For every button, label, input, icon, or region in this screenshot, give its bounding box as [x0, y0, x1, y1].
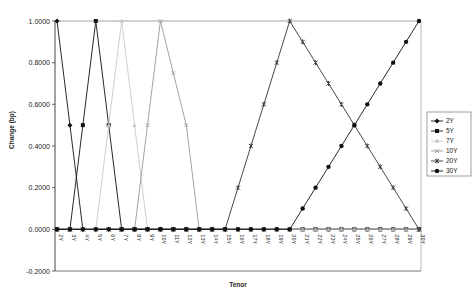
y-tick-label: 0.4000 [29, 143, 51, 150]
x-tick-label: 20Y [291, 234, 297, 244]
line-chart: 1.00000.80000.60000.40000.20000.0000-0.2… [0, 0, 475, 295]
x-tick-label: 23Y [330, 234, 336, 244]
plot-area [55, 19, 422, 232]
x-tick-label: 9Y [149, 234, 155, 241]
legend-label: 5Y [446, 127, 455, 134]
x-tick-label: 11Y [174, 234, 180, 244]
x-tick-label: 26Y [368, 234, 374, 244]
x-axis-label: Tenor [229, 281, 247, 288]
y-tick-label: 0.6000 [29, 101, 51, 108]
y-axis-label: Change (bp) [8, 111, 16, 149]
legend: 2Y5Y7Y10Y20Y30Y [427, 112, 471, 176]
x-tick-label: 4Y [84, 234, 90, 241]
legend-label: 7Y [446, 137, 455, 144]
series-7y [55, 19, 421, 232]
x-tick-label: 21Y [304, 234, 310, 244]
x-tick-label: 25Y [355, 234, 361, 244]
x-tick-label: 28Y [394, 234, 400, 244]
legend-label: 2Y [446, 117, 455, 124]
y-tick-label: 0.2000 [29, 184, 51, 191]
x-tick-label: 2Y [58, 234, 64, 241]
y-tick-label: 0.8000 [29, 59, 51, 66]
x-tick-label: 15Y [226, 234, 232, 244]
x-tick-label: 12Y [187, 234, 193, 244]
x-tick-label: 6Y [110, 234, 116, 241]
x-tick-label: 5Y [97, 234, 103, 241]
x-tick-label: 8Y [136, 234, 142, 241]
x-tick-label: 7Y [123, 234, 129, 241]
legend-label: 30Y [446, 167, 458, 174]
y-tick-label: 0.0000 [29, 226, 51, 233]
y-tick-label: 1.0000 [29, 18, 51, 25]
x-tick-label: 29Y [407, 234, 413, 244]
legend-label: 20Y [446, 157, 458, 164]
x-tick-label: 10Y [161, 234, 167, 244]
x-tick-label: 3Y [71, 234, 77, 241]
x-tick-label: 19Y [278, 234, 284, 244]
x-tick-label: 17Y [252, 234, 258, 244]
x-axis: 2Y3Y4Y5Y6Y7Y8Y9Y10Y11Y12Y13Y14Y15Y16Y17Y… [55, 229, 426, 244]
x-tick-label: 30Y [420, 234, 426, 244]
x-tick-label: 24Y [342, 234, 348, 244]
x-tick-label: 22Y [317, 234, 323, 244]
x-tick-label: 16Y [239, 234, 245, 244]
x-tick-label: 18Y [265, 234, 271, 244]
x-tick-label: 14Y [213, 234, 219, 244]
legend-label: 10Y [446, 147, 458, 154]
x-tick-label: 13Y [200, 234, 206, 244]
y-tick-label: -0.2000 [26, 268, 50, 275]
x-tick-label: 27Y [381, 234, 387, 244]
